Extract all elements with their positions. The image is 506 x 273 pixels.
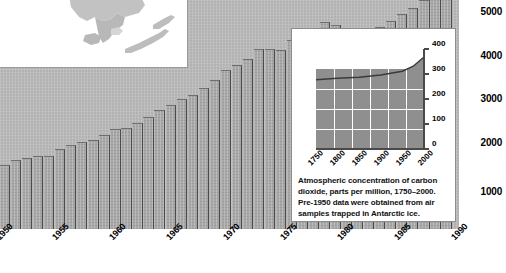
bar — [88, 140, 98, 229]
bar — [210, 80, 220, 229]
bar — [154, 110, 164, 229]
bar — [99, 135, 109, 229]
co2-area-chart — [302, 37, 448, 157]
map-graphic — [0, 0, 188, 68]
caption-line: samples trapped in Antarctic ice. — [298, 208, 452, 219]
bar — [22, 158, 32, 229]
bar — [55, 149, 65, 229]
bar — [265, 49, 275, 229]
inset-y-tick: 300 — [432, 64, 445, 73]
bar — [276, 50, 286, 229]
bar — [44, 156, 54, 229]
bar — [221, 70, 231, 230]
bar — [11, 160, 21, 229]
bar — [254, 49, 264, 229]
inset-y-tick: 400 — [432, 39, 445, 48]
bar — [66, 145, 76, 229]
y-tick: 3000 — [481, 93, 502, 104]
co2-concentration-inset: 400 300 200 100 0 1750 1800 1850 1900 19… — [291, 28, 456, 222]
bar — [232, 65, 242, 229]
inset-caption: Atmospheric concentration of carbon diox… — [298, 175, 452, 219]
bar — [166, 105, 176, 229]
bar — [0, 165, 10, 229]
inset-y-tick: 200 — [432, 89, 445, 98]
bar — [143, 117, 153, 229]
caption-line: Atmospheric concentration of carbon — [298, 175, 452, 186]
bar — [121, 128, 131, 229]
inset-y-tick: 0 — [432, 139, 436, 148]
inset-y-tick: 100 — [432, 114, 445, 123]
y-tick: 2000 — [481, 137, 502, 148]
bar — [77, 142, 87, 229]
atmospheric-co2-figure: 5000 4000 3000 2000 1000 1950 1955 1960 … — [0, 0, 506, 273]
bottom-year-axis: 1950 1955 1960 1965 1970 1975 1980 1985 … — [0, 229, 459, 273]
y-tick: 1000 — [481, 186, 502, 197]
bar — [188, 95, 198, 229]
bar — [199, 88, 209, 229]
locator-map-inset — [0, 0, 188, 68]
bar — [132, 123, 142, 229]
y-tick: 5000 — [481, 6, 502, 17]
bar — [33, 156, 43, 229]
bar — [110, 129, 120, 229]
caption-line: Pre-1950 data were obtained from air — [298, 197, 452, 208]
y-tick: 4000 — [481, 50, 502, 61]
caption-line: dioxide, parts per million, 1750–2000. — [298, 186, 452, 197]
bar — [243, 59, 253, 229]
bar — [177, 99, 187, 229]
